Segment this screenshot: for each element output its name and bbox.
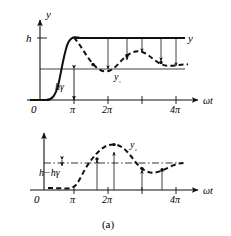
h-gamma-label: hγ (55, 81, 65, 92)
lower-plot: h−hγ y₂ 0 π 2π 4π ωt (30, 133, 213, 205)
figure-caption: (a) (102, 218, 115, 231)
upper-curve-y1-label: y₁ (113, 71, 121, 84)
upper-h-label: h (26, 32, 32, 44)
lower-xtick-2pi: 2π (102, 194, 113, 205)
upper-xtick-2pi: 2π (102, 104, 113, 115)
upper-xtick-pi: π (70, 104, 76, 115)
lower-curve-y2-label: y₂ (129, 139, 137, 152)
figure-container: y h hγ y y₁ 0 π 2π 4π ωt (0, 0, 231, 236)
lower-xtick-pi: π (70, 194, 76, 205)
lower-x-axis-label: ωt (203, 185, 213, 196)
curve-y2 (48, 144, 186, 188)
physics-figure: y h hγ y y₁ 0 π 2π 4π ωt (0, 0, 231, 236)
upper-curve-y-label: y (187, 32, 193, 44)
curve-y1 (74, 38, 188, 72)
upper-x-axis-label: ωt (203, 95, 213, 106)
upper-origin-label: 0 (31, 103, 37, 115)
h-minus-h-gamma-label: h−hγ (39, 167, 61, 178)
upper-plot: y h hγ y y₁ 0 π 2π 4π ωt (26, 8, 213, 115)
lower-connector-lines (97, 152, 162, 190)
lower-origin-label: 0 (34, 193, 40, 205)
lower-xtick-4pi: 4π (170, 194, 181, 205)
upper-xtick-4pi: 4π (170, 104, 181, 115)
upper-y-axis-label: y (45, 8, 51, 20)
